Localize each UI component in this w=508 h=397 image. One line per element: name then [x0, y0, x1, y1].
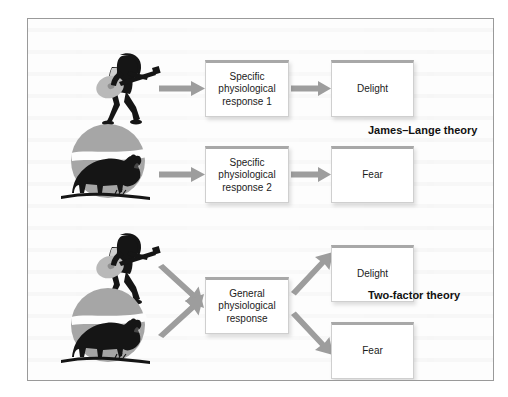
- figure-frame: Specific physiological response 1 Deligh…: [27, 18, 494, 381]
- node-jl-response-1-label: Specific physiological response 1: [215, 71, 278, 109]
- bear-icon: [53, 123, 163, 203]
- node-jl-response-1: Specific physiological response 1: [205, 60, 289, 117]
- diagram-canvas: Specific physiological response 1 Deligh…: [28, 19, 493, 380]
- arrow-response1-to-delight: [291, 81, 331, 97]
- node-tf-emotion-2: Fear: [331, 322, 414, 379]
- node-tf-response-label: General physiological response: [215, 288, 278, 326]
- node-jl-emotion-2-label: Fear: [359, 169, 386, 182]
- node-tf-emotion-2-label: Fear: [359, 345, 386, 358]
- arrow-general-response-to-delight: [289, 255, 337, 297]
- caption-james-lange: James–Lange theory: [368, 124, 477, 136]
- node-jl-emotion-1: Delight: [331, 60, 414, 117]
- guitarist-icon: [86, 47, 162, 127]
- node-jl-response-2-label: Specific physiological response 2: [215, 157, 278, 195]
- node-jl-emotion-1-label: Delight: [354, 83, 391, 96]
- arrow-response2-to-fear: [291, 167, 331, 183]
- node-tf-emotion-1-label: Delight: [354, 268, 391, 281]
- bear-icon: [53, 287, 163, 367]
- arrow-bear-to-response2: [159, 167, 205, 183]
- node-jl-response-2: Specific physiological response 2: [205, 146, 289, 203]
- arrow-guitarist-to-response1: [159, 81, 205, 97]
- node-jl-emotion-2: Fear: [331, 146, 414, 203]
- node-tf-response: General physiological response: [205, 277, 289, 334]
- caption-two-factor: Two-factor theory: [368, 289, 460, 301]
- arrow-general-response-to-fear: [289, 311, 337, 355]
- arrow-bear-to-general-response: [156, 297, 208, 341]
